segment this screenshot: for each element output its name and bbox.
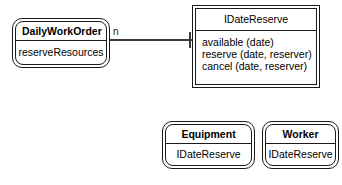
class-operations-equipment: IDateReserve xyxy=(166,144,251,166)
interface-box-date-reserve[interactable]: IDateReserve available (date) reserve (d… xyxy=(192,5,320,88)
operation-cancel: cancel (date, reserver) xyxy=(202,60,307,72)
association-line xyxy=(110,39,192,41)
interface-box-inner-frame: IDateReserve available (date) reserve (d… xyxy=(195,8,317,85)
class-title-equipment: Equipment xyxy=(166,125,251,144)
operation-equipment-date-reserve: IDateReserve xyxy=(176,148,240,160)
class-box-daily-work-order[interactable]: DailyWorkOrder reserveResources xyxy=(12,18,110,68)
interface-title-date-reserve: IDateReserve xyxy=(196,9,316,31)
association-end-tick xyxy=(189,32,191,48)
class-box-inner-frame-equipment: Equipment IDateReserve xyxy=(165,124,252,166)
operation-available: available (date) xyxy=(202,36,274,48)
operation-reserve: reserve (date, reserver) xyxy=(202,48,312,60)
interface-operations-date-reserve: available (date) reserve (date, reserver… xyxy=(196,31,316,85)
uml-diagram-canvas: DailyWorkOrder reserveResources n IDateR… xyxy=(0,0,342,185)
class-box-worker[interactable]: Worker IDateReserve xyxy=(262,121,339,169)
association-multiplicity-label: n xyxy=(113,27,119,37)
class-box-inner-frame-worker: Worker IDateReserve xyxy=(265,124,336,166)
operation-reserve-resources: reserveResources xyxy=(18,46,103,58)
class-title-daily-work-order: DailyWorkOrder xyxy=(16,22,106,41)
operation-worker-date-reserve: IDateReserve xyxy=(268,148,332,160)
class-box-inner-frame: DailyWorkOrder reserveResources xyxy=(15,21,107,65)
class-box-equipment[interactable]: Equipment IDateReserve xyxy=(162,121,255,169)
class-operations-daily-work-order: reserveResources xyxy=(16,41,106,65)
class-title-worker: Worker xyxy=(266,125,335,144)
class-operations-worker: IDateReserve xyxy=(266,144,335,166)
